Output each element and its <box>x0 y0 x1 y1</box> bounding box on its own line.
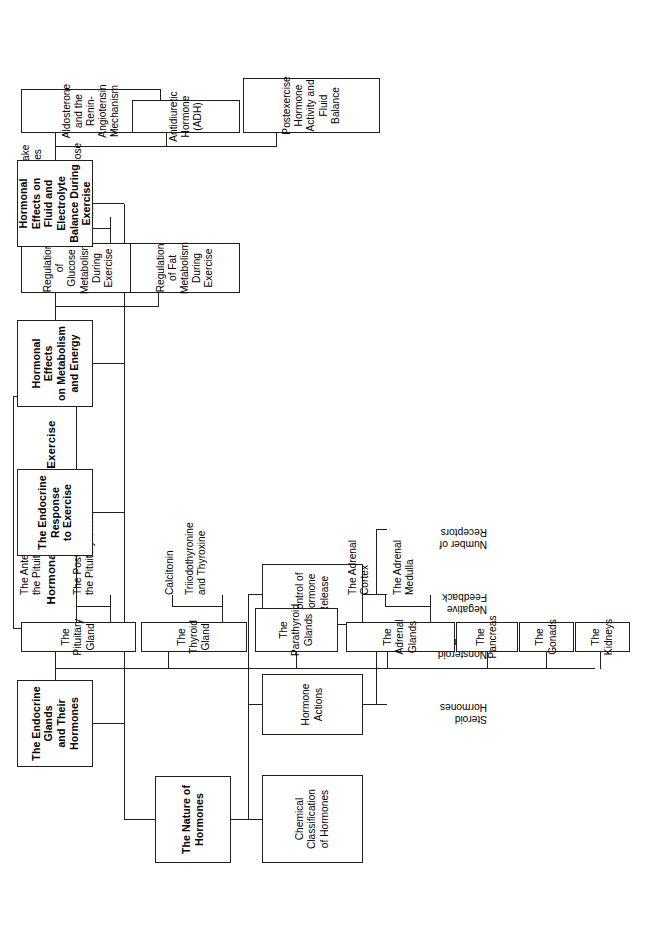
tick-pituitary <box>55 652 56 669</box>
connector-hormone-actions-down <box>363 704 377 705</box>
node-chemical-classification: Chemical Classification of Hormones <box>262 775 363 863</box>
connector-control-release <box>248 594 262 595</box>
tick-posterior-lobe <box>110 595 111 607</box>
connector-metabolism <box>93 363 124 364</box>
bus-glands <box>55 668 595 669</box>
leaf-adrenal-cortex: The Adrenal Cortex <box>347 485 387 595</box>
diagram-page: Chapter 5 Hormonal Regulation of Exercis… <box>0 0 649 929</box>
node-kidneys: The Kidneys <box>575 622 630 652</box>
tick-steroid <box>376 704 387 705</box>
branch-fluid-electrolyte: Hormonal Effects on Fluid and Electrolyt… <box>17 160 93 247</box>
node-fat-regulation: Regulation of Fat Metabolism During Exer… <box>130 243 240 293</box>
node-hormone-actions: Hormone Actions <box>262 674 363 735</box>
leaf-triiodothyronine-thyroxine: Triiodothyronine and Thyroxine <box>184 475 224 595</box>
node-pancreas: The Pancreas <box>456 622 518 652</box>
node-parathyroid-glands: The Parathyroid Glands <box>255 608 338 652</box>
node-adrenal-glands: The Adrenal Glands <box>346 622 455 652</box>
connector-metabolism-out <box>55 306 56 320</box>
node-antidiuretic-hormone: Antidiuretic Hormone (ADH) <box>132 100 240 133</box>
tick-postexercise <box>276 133 277 147</box>
node-glucose-regulation: Regulation of Glucose Metabolism During … <box>21 243 136 293</box>
branch-metabolism-energy: Hormonal Effects on Metabolism and Energ… <box>17 320 93 407</box>
connector-nature-down <box>231 819 249 820</box>
connector-hormone-actions <box>248 704 262 705</box>
connector-glands-out <box>55 668 56 680</box>
node-postexercise: Postexercise Hormone Activity and Fluid … <box>243 78 380 133</box>
node-gonads: The Gonads <box>519 622 574 652</box>
connector-pituitary-down <box>110 606 111 622</box>
bus-nature-children <box>248 595 249 820</box>
tick-glucose-regulation <box>55 293 56 307</box>
branch-endocrine-response: The Endocrine Response to Exercise <box>17 469 93 556</box>
branch-endocrine-glands: The Endocrine Glands and Their Hormones <box>17 680 93 767</box>
leaf-adrenal-medulla: The Adrenal Medulla <box>392 485 432 595</box>
branch-nature-of-hormones: The Nature of Hormones <box>155 776 231 863</box>
connector-thyroid-down <box>222 606 223 622</box>
bus-thyroid-leaves <box>172 606 223 607</box>
leaf-calcitonin: Calcitonin <box>164 475 184 595</box>
connector-nature <box>124 819 155 820</box>
concept-map-canvas: Chapter 5 Hormonal Regulation of Exercis… <box>0 0 649 929</box>
tick-thyroid <box>168 652 169 669</box>
connector-chemical-classification <box>248 819 262 820</box>
node-thyroid-gland: The Thyroid Gland <box>141 622 247 652</box>
tick-triiodothyronine <box>222 595 223 607</box>
tick-calcitonin <box>172 595 173 607</box>
leaf-steroid-hormones: Steroid Hormones <box>387 681 487 725</box>
tick-fat-regulation <box>158 293 159 307</box>
connector-glucose-leaves <box>110 228 111 243</box>
bus-metabolism-children <box>55 306 159 307</box>
node-pituitary-gland: The Pituitary Gland <box>21 622 136 652</box>
connector-endocrine-glands <box>93 723 124 724</box>
trunk-bus <box>124 204 125 820</box>
tick-plasma-glucose <box>110 217 111 229</box>
